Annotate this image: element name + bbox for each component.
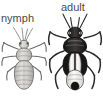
adult-pronotum [64,38,87,54]
adult-membrane [67,70,84,90]
adult-illustration [47,13,103,93]
nymph-antennae [14,28,33,43]
adult-head [68,27,83,38]
nymph-illustration [0,26,50,92]
nymph-label: nymph [1,12,34,24]
adult-antennae [63,14,87,29]
adult-label: adult [61,1,85,13]
insect-life-stages-figure: nymph adult [0,0,103,96]
